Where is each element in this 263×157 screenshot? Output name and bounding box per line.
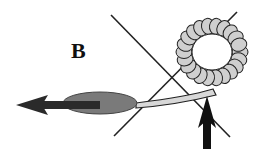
up-arrow-icon (198, 96, 216, 149)
tail-strand (136, 89, 216, 108)
diagram-figure: B (0, 0, 263, 157)
diagram-canvas (0, 0, 263, 157)
panel-label: B (71, 38, 86, 64)
ring-hole (192, 34, 232, 70)
beaded-ring (176, 17, 249, 86)
